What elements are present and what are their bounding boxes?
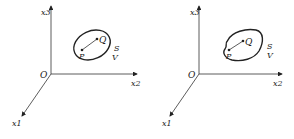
- s-label: S: [267, 42, 273, 51]
- pq-segment: [82, 39, 97, 50]
- x3-label: x3: [41, 8, 51, 17]
- left-diagram: x3 x2 x1 O P Q S V: [12, 6, 141, 128]
- x1-label: x1: [162, 119, 172, 128]
- x1-axis: [170, 74, 199, 116]
- x2-label: x2: [131, 79, 141, 88]
- q-label: Q: [245, 37, 253, 47]
- origin-label: O: [188, 70, 196, 80]
- x3-label: x3: [190, 8, 200, 17]
- region-ellipse: [69, 24, 115, 65]
- v-label: V: [267, 51, 274, 60]
- diagram-canvas: x3 x2 x1 O P Q S V x3 x2 x1 O P Q S V: [0, 0, 294, 139]
- x1-axis: [22, 74, 51, 116]
- pq-segment: [229, 41, 243, 50]
- origin-label: O: [40, 70, 48, 80]
- x1-label: x1: [12, 119, 22, 128]
- point-q: [242, 40, 245, 43]
- point-p: [228, 49, 231, 52]
- point-q: [96, 38, 99, 41]
- q-label: Q: [99, 35, 107, 45]
- right-diagram: x3 x2 x1 O P Q S V: [162, 6, 283, 128]
- point-p: [81, 49, 84, 52]
- x2-label: x2: [273, 79, 283, 88]
- v-label: V: [112, 53, 119, 62]
- s-label: S: [114, 44, 120, 53]
- p-label: P: [225, 52, 232, 61]
- p-label: P: [78, 52, 85, 61]
